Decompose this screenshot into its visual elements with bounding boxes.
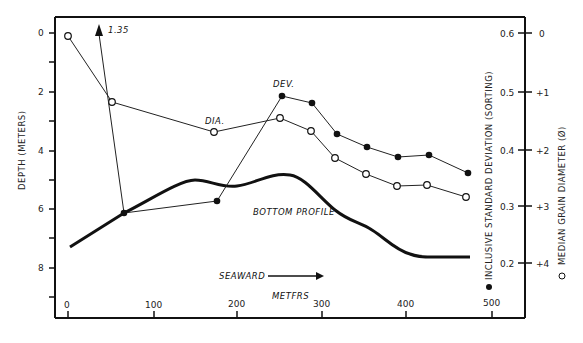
svg-text:4: 4 <box>38 146 44 156</box>
seaward-label: SEAWARD <box>219 271 265 281</box>
bottom-profile-label: BOTTOM PROFILE <box>253 207 335 217</box>
svg-text:+2: +2 <box>536 146 549 156</box>
dia-series-markers <box>65 33 470 201</box>
open-circle-legend-icon <box>559 273 565 279</box>
dia-series-line <box>68 36 466 197</box>
seaward-arrow-icon <box>268 272 324 280</box>
y-axis-right-sorting-labels: 0.6 0.5 0.4 0.3 0.2 <box>500 29 515 269</box>
y-axis-left-title: DEPTH (METERS) <box>17 110 27 190</box>
svg-text:8: 8 <box>38 263 44 273</box>
y-axis-right-phi-title: MEDIAN GRAIN DIAMETER (Ø) <box>557 126 567 265</box>
dia-label: DIA. <box>205 116 225 126</box>
y-axis-right-sorting-title: INCLUSIVE STANDARD DEVIATION (SORTING) <box>484 71 494 280</box>
filled-circle-legend-icon <box>486 284 492 290</box>
dev-label: DEV. <box>273 79 294 89</box>
svg-text:+3: +3 <box>536 202 549 212</box>
svg-text:6: 6 <box>38 204 44 214</box>
svg-text:400: 400 <box>397 299 414 309</box>
svg-text:0.4: 0.4 <box>500 146 515 156</box>
svg-text:2: 2 <box>38 87 44 97</box>
svg-text:500: 500 <box>483 298 500 308</box>
svg-text:0.2: 0.2 <box>500 259 514 269</box>
dev-series-markers <box>121 93 472 217</box>
dev-offscale-arrow-icon <box>95 24 124 213</box>
svg-text:300: 300 <box>313 299 330 309</box>
svg-text:0: 0 <box>539 29 545 39</box>
svg-text:0: 0 <box>38 28 44 38</box>
y-axis-right-phi-labels: 0 +1 +2 +3 +4 <box>536 29 550 269</box>
svg-text:0.3: 0.3 <box>500 202 514 212</box>
svg-text:200: 200 <box>228 299 245 309</box>
chart: 0 2 4 6 8 DEPTH (METERS) 0 100 200 300 4… <box>0 0 583 343</box>
dev-offscale-label: 1.35 <box>108 25 129 35</box>
plot-frame <box>55 17 525 318</box>
svg-text:0.6: 0.6 <box>500 29 515 39</box>
x-axis-title: METFRS <box>272 291 309 301</box>
dev-series-line <box>124 96 468 213</box>
y-axis-left-labels: 0 2 4 6 8 <box>38 28 44 273</box>
svg-text:100: 100 <box>145 300 162 310</box>
svg-text:0.5: 0.5 <box>500 88 514 98</box>
svg-text:+4: +4 <box>536 259 550 269</box>
x-axis-ticks <box>68 311 492 318</box>
svg-text:0: 0 <box>64 300 70 310</box>
svg-text:+1: +1 <box>536 88 549 98</box>
